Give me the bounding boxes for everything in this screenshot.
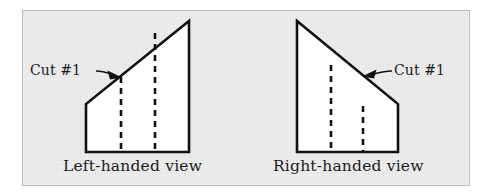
left-handed-shape — [86, 21, 189, 152]
right-handed-caption: Right-handed view — [273, 157, 424, 175]
figure-page: Cut #1 Cut #1 Left-handed view Right-han… — [0, 0, 489, 196]
left-cut-label: Cut #1 — [30, 62, 81, 78]
right-handed-shape-group — [297, 21, 398, 152]
left-handed-shape-group — [86, 21, 189, 152]
left-handed-caption: Left-handed view — [63, 157, 202, 175]
right-handed-shape — [297, 21, 398, 152]
right-cut-label: Cut #1 — [394, 62, 445, 78]
